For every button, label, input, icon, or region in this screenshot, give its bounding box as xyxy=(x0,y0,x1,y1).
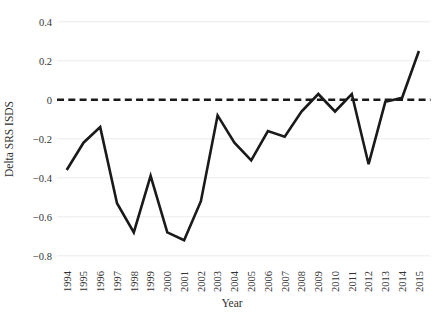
x-tick-label: 2000 xyxy=(162,271,173,292)
x-tick-label: 2006 xyxy=(263,271,274,292)
x-tick-label: 1995 xyxy=(78,271,89,292)
y-axis-title: Delta SRS ISDS xyxy=(3,84,19,194)
y-tick-label: −0.4 xyxy=(33,173,53,184)
x-tick-label: 2012 xyxy=(363,271,374,292)
x-tick-label: 2015 xyxy=(414,271,425,292)
y-tick-label: −0.6 xyxy=(33,212,52,223)
x-tick-label: 2003 xyxy=(212,271,223,292)
x-tick-label: 2014 xyxy=(397,270,408,292)
x-tick-label: 2005 xyxy=(246,271,257,292)
figure: 0.40.20−0.2−0.4−0.6−0.819941995199619971… xyxy=(0,0,437,319)
x-tick-label: 2010 xyxy=(330,271,341,292)
data-line xyxy=(67,51,419,240)
x-tick-label: 2002 xyxy=(196,271,207,292)
x-tick-label: 1996 xyxy=(95,271,106,292)
x-tick-label: 2001 xyxy=(179,271,190,292)
x-tick-label: 1998 xyxy=(129,271,140,292)
x-tick-label: 1994 xyxy=(62,270,73,292)
x-tick-label: 1999 xyxy=(145,271,156,292)
x-tick-label: 2013 xyxy=(380,271,391,292)
y-tick-label: 0.4 xyxy=(39,17,53,28)
x-tick-label: 2011 xyxy=(347,271,358,292)
y-tick-label: 0 xyxy=(47,95,52,106)
x-tick-label: 2007 xyxy=(280,271,291,292)
x-tick-label: 2009 xyxy=(313,271,324,292)
x-tick-label: 1997 xyxy=(112,271,123,292)
y-tick-label: 0.2 xyxy=(39,56,52,67)
y-tick-label: −0.8 xyxy=(33,251,52,262)
chart-canvas: 0.40.20−0.2−0.4−0.6−0.819941995199619971… xyxy=(0,0,437,319)
y-tick-label: −0.2 xyxy=(33,134,52,145)
x-tick-label: 2004 xyxy=(229,270,240,292)
x-axis-title: Year xyxy=(172,297,292,313)
x-tick-label: 2008 xyxy=(296,271,307,292)
